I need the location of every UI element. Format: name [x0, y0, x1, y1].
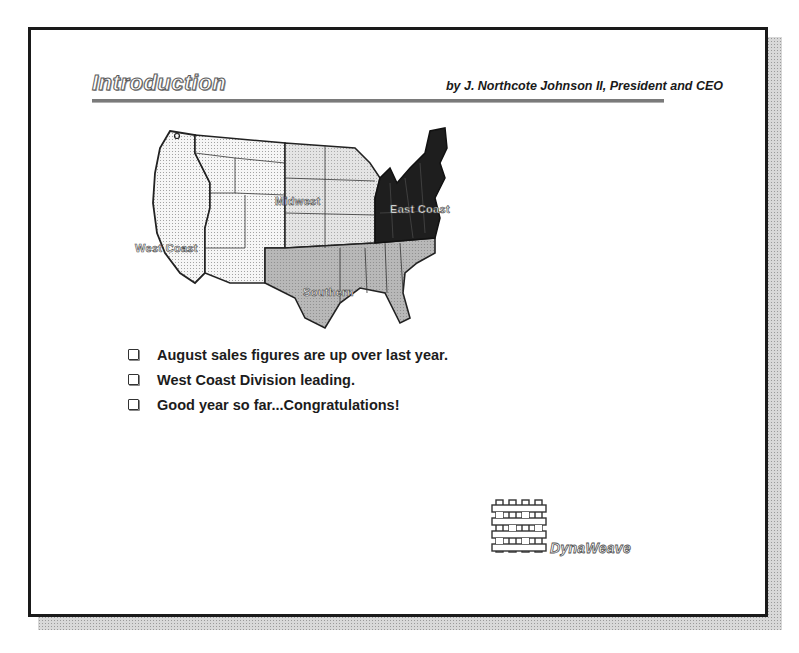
bullet-text: Good year so far...Congratulations!	[157, 397, 400, 413]
region-east-coast	[375, 128, 447, 243]
us-map-icon	[135, 123, 465, 333]
bullet-text: West Coast Division leading.	[157, 372, 355, 388]
map-label-southern: Southern	[303, 286, 354, 298]
bullet-item: Good year so far...Congratulations!	[128, 392, 448, 417]
checkbox-bullet-icon	[128, 399, 139, 410]
bullet-text: August sales figures are up over last ye…	[157, 347, 448, 363]
slide-byline: by J. Northcote Johnson II, President an…	[446, 79, 723, 93]
us-region-map: Midwest East Coast West Coast Southern	[135, 123, 465, 333]
map-label-midwest: Midwest	[275, 195, 321, 207]
bullet-item: August sales figures are up over last ye…	[128, 342, 448, 367]
map-label-west-coast: West Coast	[135, 242, 198, 254]
header-rule	[92, 99, 664, 103]
checkbox-bullet-icon	[128, 374, 139, 385]
bullet-item: West Coast Division leading.	[128, 367, 448, 392]
checkbox-bullet-icon	[128, 349, 139, 360]
map-label-east-coast: East Coast	[390, 203, 450, 215]
slide-title: Introduction	[92, 70, 226, 96]
logo-wordmark: DynaWeave	[550, 540, 631, 556]
region-southern	[265, 238, 435, 328]
woven-grid-icon	[488, 496, 548, 556]
bullet-list: August sales figures are up over last ye…	[128, 342, 448, 417]
